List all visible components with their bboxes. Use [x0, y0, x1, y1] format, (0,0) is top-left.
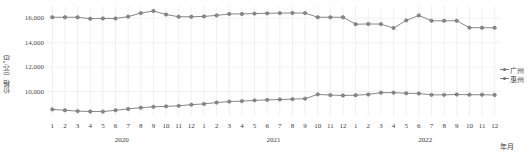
x-axis-month-label: 6	[265, 122, 269, 130]
y-axis-tick-label: 14,000	[25, 39, 44, 47]
x-axis-month-label: 3	[228, 122, 232, 130]
series-guangzhou	[51, 9, 497, 29]
grid-horizontal	[46, 18, 501, 91]
x-axis-month-label: 1	[51, 122, 55, 130]
legend-item-label: 惠州	[510, 74, 524, 84]
x-axis-month-label: 6	[417, 122, 421, 130]
x-axis-month-label: 3	[76, 122, 80, 130]
x-axis-month-label: 9	[152, 122, 156, 130]
x-axis-month-label: 11	[479, 122, 486, 130]
x-axis-month-label: 10	[466, 122, 473, 130]
x-axis-month-label: 9	[455, 122, 459, 130]
x-axis-month-label: 5	[253, 122, 257, 130]
y-axis-tick-label: 12,000	[25, 63, 44, 71]
x-axis-month-label: 1	[202, 122, 206, 130]
x-axis-month-label: 8	[442, 122, 446, 130]
x-axis-month-label: 8	[291, 122, 295, 130]
x-axis-month-label: 2	[63, 122, 67, 130]
x-axis-month-label: 12	[491, 122, 498, 130]
x-axis: 1234567891011122020123456789101112202112…	[46, 116, 501, 159]
x-axis-month-label: 9	[303, 122, 307, 130]
y-axis-tick-label: 16,000	[25, 14, 44, 22]
x-axis-month-label: 2	[215, 122, 219, 130]
legend-item-huizhou[interactable]: 惠州	[500, 74, 530, 83]
legend-marker-icon	[500, 65, 509, 74]
x-axis-month-label: 5	[101, 122, 105, 130]
x-axis-month-label: 11	[327, 122, 334, 130]
x-axis-month-label: 12	[188, 122, 195, 130]
y-axis-tick-label: 10,000	[25, 88, 44, 96]
x-axis-month-label: 11	[175, 122, 182, 130]
x-axis-year-label: 2020	[115, 136, 129, 144]
y-axis-tick-labels: 10,00012,00014,00016,000	[12, 0, 44, 159]
x-axis-month-label: 7	[126, 122, 130, 130]
x-axis-month-label: 2	[367, 122, 371, 130]
x-axis-month-label: 1	[354, 122, 358, 130]
x-axis-month-label: 4	[88, 122, 92, 130]
x-axis-month-label: 5	[404, 122, 408, 130]
plot-svg	[46, 6, 501, 116]
chart-legend: 广州 惠州	[500, 65, 530, 83]
x-axis-month-label: 7	[278, 122, 282, 130]
price-trend-chart: 价格（元/㎡） 10,00012,00014,00016,000 1234567…	[0, 0, 530, 159]
x-axis-month-label: 10	[163, 122, 170, 130]
x-axis-month-label: 4	[240, 122, 244, 130]
x-axis-unit-label: 年月	[500, 141, 514, 151]
x-axis-month-label: 4	[392, 122, 396, 130]
x-axis-year-label: 2022	[418, 136, 432, 144]
series-huizhou	[51, 91, 497, 113]
x-axis-month-label: 7	[430, 122, 434, 130]
legend-marker-icon	[500, 74, 509, 83]
x-axis-month-label: 12	[340, 122, 347, 130]
x-axis-month-label: 3	[379, 122, 383, 130]
x-axis-month-label: 8	[139, 122, 143, 130]
x-axis-year-label: 2021	[267, 136, 281, 144]
x-axis-month-label: 6	[114, 122, 118, 130]
plot-area	[46, 6, 501, 116]
x-axis-month-label: 10	[314, 122, 321, 130]
